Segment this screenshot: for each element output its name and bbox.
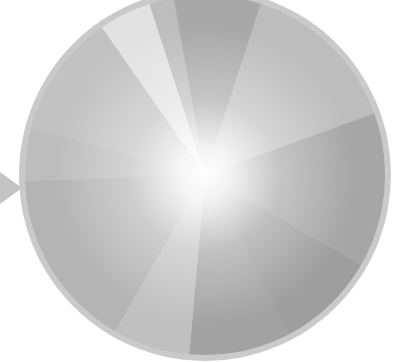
graphic-stage: [0, 0, 395, 362]
center-glow: [0, 0, 395, 362]
radial-disc: [0, 0, 395, 362]
